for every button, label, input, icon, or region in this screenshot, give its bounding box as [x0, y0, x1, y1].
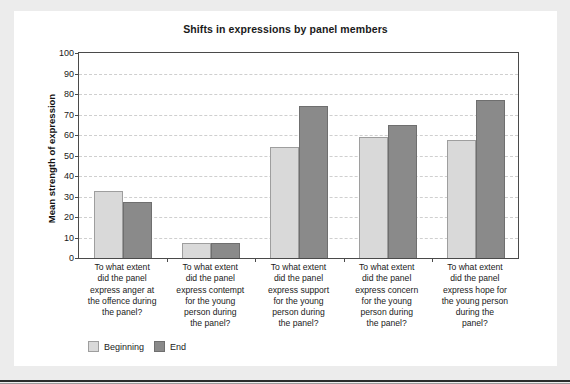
chart-title: Shifts in expressions by panel members [14, 23, 557, 35]
y-axis-title: Mean strength of expression [46, 64, 57, 254]
y-tick-label: 10 [64, 233, 74, 243]
y-tick-label: 90 [64, 69, 74, 79]
bar-beginning[interactable] [447, 140, 476, 258]
page-bottom-rule [0, 380, 570, 382]
chart-legend: BeginningEnd [88, 341, 186, 352]
bar-group [344, 53, 432, 258]
x-axis-category-labels: To what extentdid the panelexpress anger… [78, 262, 519, 338]
legend-swatch-end [154, 341, 165, 352]
y-tick-label: 20 [64, 212, 74, 222]
legend-label: Beginning [104, 342, 144, 352]
bar-group [167, 53, 255, 258]
y-tick-label: 40 [64, 171, 74, 181]
bar-group [255, 53, 343, 258]
y-tick-label: 30 [64, 192, 74, 202]
y-tick-label: 70 [64, 110, 74, 120]
legend-swatch-beginning [88, 341, 99, 352]
chart-card: Shifts in expressions by panel members M… [14, 11, 557, 366]
bar-beginning[interactable] [94, 191, 123, 258]
bar-end[interactable] [388, 125, 417, 258]
legend-item-beginning[interactable]: Beginning [88, 341, 144, 352]
bar-end[interactable] [123, 202, 152, 258]
y-tick-label: 60 [64, 130, 74, 140]
bar-beginning[interactable] [270, 147, 299, 258]
y-tick-label: 0 [69, 253, 74, 263]
x-axis-label: To what extentdid the panelexpress anger… [78, 262, 166, 318]
bar-beginning[interactable] [182, 243, 211, 258]
y-tick-mark [75, 258, 79, 259]
y-tick-label: 50 [64, 151, 74, 161]
y-tick-label: 100 [59, 48, 74, 58]
x-axis-label: To what extentdid the panelexpress suppo… [254, 262, 342, 330]
legend-label: End [170, 342, 186, 352]
plot-area: 0102030405060708090100 [78, 52, 519, 259]
legend-item-end[interactable]: End [154, 341, 186, 352]
bar-end[interactable] [476, 100, 505, 258]
y-tick-label: 80 [64, 89, 74, 99]
bar-end[interactable] [211, 243, 240, 258]
x-axis-label: To what extentdid the panelexpress conte… [166, 262, 254, 330]
bar-group [79, 53, 167, 258]
x-axis-label: To what extentdid the panelexpress conce… [343, 262, 431, 330]
bar-beginning[interactable] [359, 137, 388, 258]
bar-end[interactable] [299, 106, 328, 258]
bar-group [432, 53, 520, 258]
bars-layer [79, 53, 518, 258]
x-axis-label: To what extentdid the panelexpress hope … [431, 262, 519, 330]
